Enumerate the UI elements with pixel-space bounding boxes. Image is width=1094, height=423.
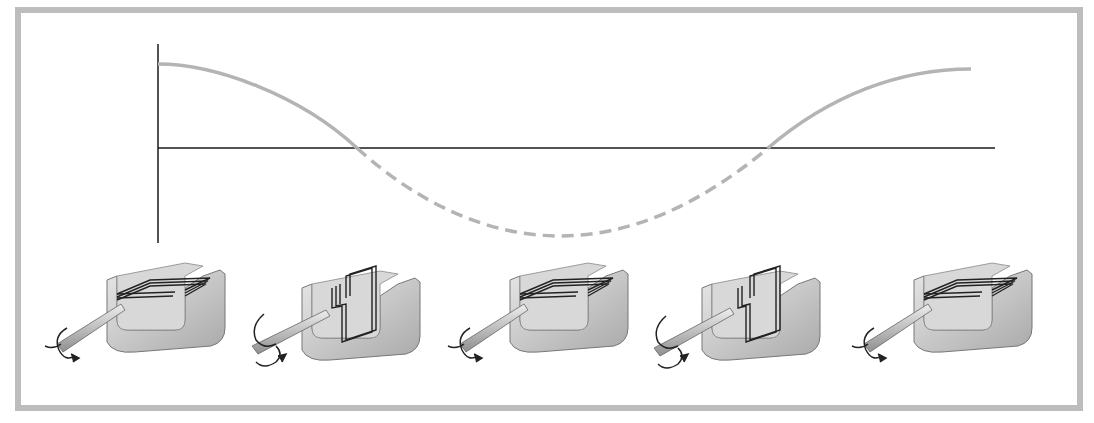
generator-illustration-2 — [242, 258, 442, 398]
waveform-positive-end — [768, 69, 971, 148]
generator-illustration-3 — [438, 258, 638, 398]
magnet-trough-icon — [914, 263, 1032, 352]
generator-illustration-5 — [842, 258, 1042, 398]
generator-illustration-4 — [642, 258, 842, 398]
generator-illustration-1 — [35, 258, 235, 398]
magnet-trough-icon — [510, 263, 628, 352]
waveform-negative-dashed — [357, 148, 768, 236]
waveform-positive-start — [158, 64, 357, 148]
magnet-trough-icon — [107, 263, 225, 352]
